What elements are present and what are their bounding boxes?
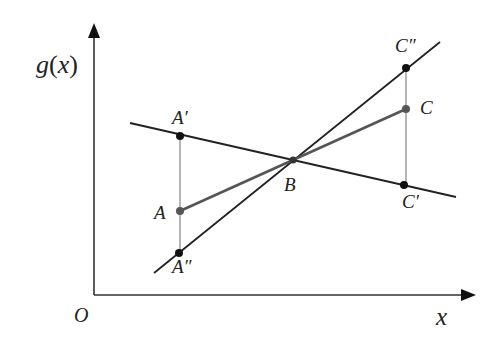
origin-label: O [74, 305, 88, 325]
label-A-double-prime: A″ [172, 257, 192, 276]
point-B [290, 157, 297, 164]
y-axis-label-close: ) [69, 50, 78, 79]
axes [88, 23, 476, 301]
x-axis-label: x [436, 304, 447, 329]
label-A-prime: A′ [172, 108, 188, 127]
y-axis-arrow-icon [88, 23, 100, 38]
label-A: A [154, 203, 166, 222]
label-C: C [420, 98, 433, 117]
point-A-prime [176, 132, 184, 140]
y-axis-label-var: x [58, 50, 70, 79]
label-C-prime: C′ [402, 192, 419, 211]
point-C-double-prime [402, 64, 410, 72]
point-C [402, 105, 410, 113]
x-axis-arrow-icon [461, 289, 476, 301]
point-A [176, 207, 184, 215]
label-B: B [284, 175, 296, 194]
label-C-double-prime: C″ [395, 36, 416, 55]
y-axis-label-func: g [36, 50, 49, 79]
y-axis-label-open: ( [49, 50, 58, 79]
point-C-prime [400, 181, 408, 189]
y-axis-label: g(x) [36, 52, 78, 78]
